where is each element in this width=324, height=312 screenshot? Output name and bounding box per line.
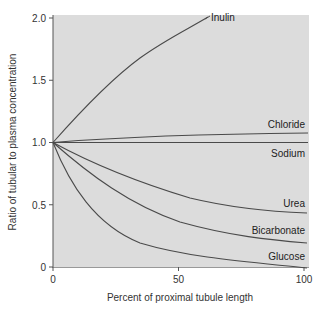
x-tick-label: 100	[296, 274, 313, 285]
y-axis-title: Ratio of tubular to plasma concentration	[7, 54, 18, 231]
glucose-label: Glucose	[268, 251, 305, 262]
inulin-label: Inulin	[211, 12, 235, 23]
x-tick-label: 50	[173, 274, 185, 285]
y-tick-label: 0	[40, 262, 46, 273]
x-axis-title: Percent of proximal tubule length	[107, 292, 253, 303]
y-tick-label: 1.5	[32, 75, 46, 86]
y-tick-label: 0.5	[32, 200, 46, 211]
bicarbonate-label: Bicarbonate	[252, 225, 306, 236]
y-tick-label: 2.0	[32, 13, 46, 24]
y-ticks	[49, 18, 53, 267]
urea-label: Urea	[283, 198, 305, 209]
line-chart: 0 0.5 1.0 1.5 2.0 0 50 100 Percent of pr…	[0, 0, 324, 312]
x-tick-label: 0	[50, 274, 56, 285]
y-tick-label: 1.0	[32, 137, 46, 148]
chloride-label: Chloride	[268, 119, 306, 130]
sodium-label: Sodium	[271, 148, 305, 159]
